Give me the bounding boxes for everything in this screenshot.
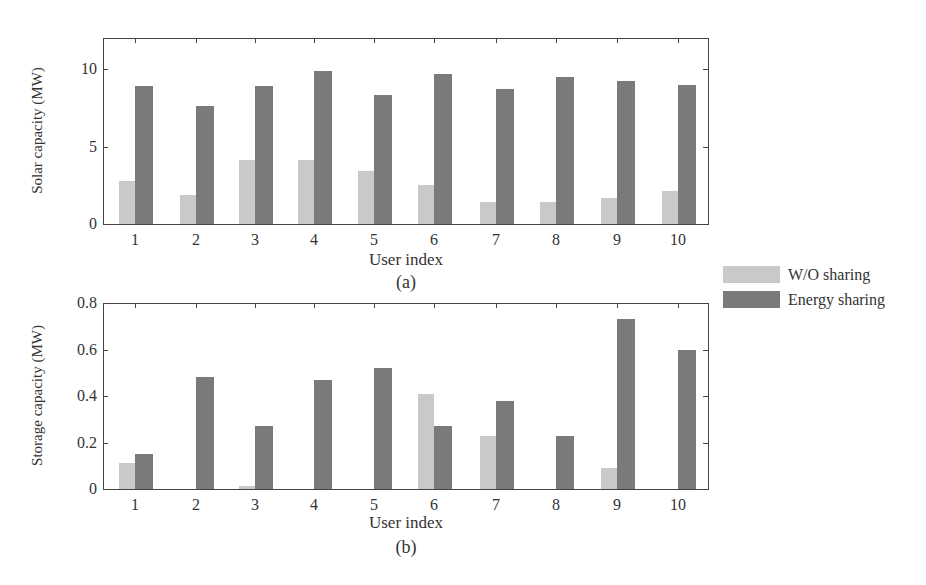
- y-axis-label: Storage capacity (MW): [29, 311, 46, 481]
- x-tick-top: [374, 303, 375, 308]
- x-axis-label: User index: [306, 250, 506, 270]
- y-tick-label: 0: [57, 481, 97, 497]
- x-tick-label: 4: [299, 232, 329, 248]
- bar-energy-sharing-user-3: [255, 86, 273, 224]
- y-tick-right: [703, 224, 708, 225]
- y-tick-label: 0: [57, 216, 97, 232]
- bar-wo-sharing-user-3: [239, 486, 255, 489]
- bar-energy-sharing-user-5: [374, 95, 392, 224]
- bar-energy-sharing-user-8: [556, 436, 574, 489]
- bar-wo-sharing-user-9: [601, 198, 617, 224]
- bar-energy-sharing-user-10: [678, 85, 696, 225]
- legend-label-wo-sharing: W/O sharing: [788, 266, 870, 284]
- x-tick-label: 5: [359, 497, 389, 513]
- y-tick-label: 5: [57, 139, 97, 155]
- bar-energy-sharing-user-2: [196, 377, 214, 489]
- bar-energy-sharing-user-10: [678, 350, 696, 490]
- bar-wo-sharing-user-2: [180, 195, 196, 224]
- x-tick-top: [617, 303, 618, 308]
- y-tick-right: [703, 303, 708, 304]
- y-tick-left: [103, 443, 108, 444]
- x-tick-label: 5: [359, 232, 389, 248]
- bar-energy-sharing-user-1: [135, 454, 153, 489]
- bar-energy-sharing-user-6: [434, 426, 452, 489]
- y-tick-left: [103, 224, 108, 225]
- bar-wo-sharing-user-4: [298, 160, 314, 224]
- bar-energy-sharing-user-4: [314, 380, 332, 489]
- x-tick-label: 4: [299, 497, 329, 513]
- bar-wo-sharing-user-7: [480, 202, 496, 224]
- bar-energy-sharing-user-2: [196, 106, 214, 224]
- x-tick-top: [374, 38, 375, 43]
- bar-energy-sharing-user-5: [374, 368, 392, 489]
- legend-label-energy-sharing: Energy sharing: [788, 291, 885, 309]
- y-tick-label: 0.4: [57, 388, 97, 404]
- x-tick-top: [196, 303, 197, 308]
- x-tick-label: 6: [419, 497, 449, 513]
- x-tick-label: 10: [663, 232, 693, 248]
- x-tick-label: 8: [541, 497, 571, 513]
- bar-energy-sharing-user-3: [255, 426, 273, 489]
- x-tick-top: [135, 303, 136, 308]
- x-tick-label: 3: [240, 497, 270, 513]
- y-tick-label: 0.8: [57, 295, 97, 311]
- bar-wo-sharing-user-6: [418, 185, 434, 224]
- x-tick-label: 1: [120, 232, 150, 248]
- x-tick-top: [678, 303, 679, 308]
- legend-item-wo-sharing: W/O sharing: [723, 262, 885, 287]
- bar-wo-sharing-user-5: [358, 171, 374, 224]
- x-tick-label: 8: [541, 232, 571, 248]
- x-tick-label: 10: [663, 497, 693, 513]
- bar-wo-sharing-user-9: [601, 468, 617, 489]
- x-tick-label: 2: [181, 497, 211, 513]
- bar-energy-sharing-user-1: [135, 86, 153, 224]
- x-tick-label: 7: [481, 232, 511, 248]
- bar-energy-sharing-user-6: [434, 74, 452, 224]
- x-tick-top: [496, 303, 497, 308]
- y-tick-left: [103, 396, 108, 397]
- x-tick-label: 3: [240, 232, 270, 248]
- bar-energy-sharing-user-9: [617, 81, 635, 224]
- bar-wo-sharing-user-8: [540, 202, 556, 224]
- bar-energy-sharing-user-9: [617, 319, 635, 489]
- bar-energy-sharing-user-7: [496, 89, 514, 224]
- y-tick-right: [703, 350, 708, 351]
- bar-wo-sharing-user-3: [239, 160, 255, 224]
- y-tick-left: [103, 147, 108, 148]
- y-axis-label: Solar capacity (MW): [29, 46, 46, 216]
- x-tick-top: [314, 38, 315, 43]
- legend-swatch-wo-sharing: [723, 266, 780, 283]
- x-tick-top: [678, 38, 679, 43]
- x-tick-top: [496, 38, 497, 43]
- x-tick-label: 6: [419, 232, 449, 248]
- bar-energy-sharing-user-7: [496, 401, 514, 489]
- bar-wo-sharing-user-7: [480, 436, 496, 489]
- x-tick-label: 1: [120, 497, 150, 513]
- bar-energy-sharing-user-4: [314, 71, 332, 224]
- bar-wo-sharing-user-1: [119, 181, 135, 224]
- bar-wo-sharing-user-1: [119, 463, 135, 489]
- y-tick-label: 10: [57, 61, 97, 77]
- panel-caption: (b): [376, 537, 436, 558]
- x-axis-label: User index: [306, 513, 506, 533]
- legend-item-energy-sharing: Energy sharing: [723, 287, 885, 312]
- y-tick-right: [703, 69, 708, 70]
- x-tick-top: [556, 303, 557, 308]
- y-tick-right: [703, 489, 708, 490]
- y-tick-label: 0.6: [57, 342, 97, 358]
- bar-wo-sharing-user-10: [662, 191, 678, 224]
- legend-swatch-energy-sharing: [723, 291, 780, 308]
- bar-wo-sharing-user-6: [418, 394, 434, 489]
- x-tick-top: [255, 38, 256, 43]
- x-tick-top: [556, 38, 557, 43]
- x-tick-top: [135, 38, 136, 43]
- x-tick-top: [196, 38, 197, 43]
- x-tick-label: 2: [181, 232, 211, 248]
- y-tick-right: [703, 443, 708, 444]
- x-tick-top: [434, 38, 435, 43]
- bar-energy-sharing-user-8: [556, 77, 574, 224]
- legend: W/O sharing Energy sharing: [723, 262, 885, 312]
- y-tick-left: [103, 350, 108, 351]
- x-tick-label: 7: [481, 497, 511, 513]
- y-tick-left: [103, 303, 108, 304]
